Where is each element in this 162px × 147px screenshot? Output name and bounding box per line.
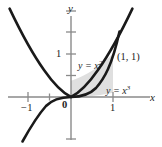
x-axis-label: x (150, 92, 155, 103)
figure-container: y x −1 1 1 0 (1, 1) y = x2 y = x3 (0, 0, 162, 147)
curve-label-cubic: y = x3 (106, 85, 130, 96)
plot-canvas (0, 0, 162, 147)
curve-label-parabola-text: y = x (78, 60, 99, 71)
x-tick-label-one: 1 (110, 103, 115, 114)
curve-label-parabola-exponent: 2 (99, 59, 103, 67)
curve-label-cubic-text: y = x (106, 85, 127, 96)
intersection-point-label: (1, 1) (117, 52, 140, 63)
origin-label-zero: 0 (62, 100, 67, 111)
curve-label-cubic-exponent: 3 (127, 84, 131, 92)
x-tick-label-negative-one: −1 (21, 103, 33, 114)
curve-label-parabola: y = x2 (78, 60, 102, 71)
y-tick-label-one: 1 (56, 49, 61, 60)
y-axis-label: y (68, 3, 73, 14)
